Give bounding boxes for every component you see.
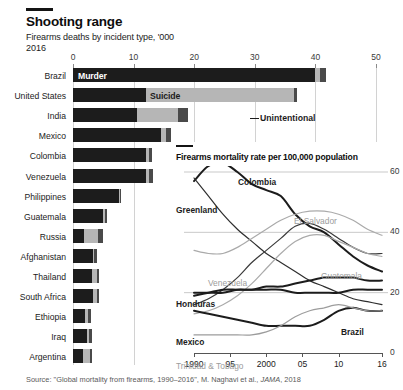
line-label-brazil: Brazil [341,327,364,337]
line-label-mexico: Mexico [176,337,204,347]
bar-segment-murder[interactable] [73,108,137,122]
bar-segment-murder[interactable] [73,148,146,162]
inset-xtick-label: 2000 [257,359,276,369]
bar-segment-murder[interactable] [73,209,103,223]
source-note: Source: "Global mortality from firearms,… [26,375,301,384]
bar-row-label: Thailand [33,272,66,282]
bar-row-label: Iraq [51,332,66,342]
unintentional-callout-line [250,118,259,119]
bar-row-label: Mexico [39,131,66,141]
bar-segment-suicide[interactable] [84,229,99,243]
inset-ytick-label: 20 [390,287,399,297]
inset-ytick-label: 0 [390,347,395,357]
bar-row-label: Colombia [30,151,66,161]
bar-segment-unintentional[interactable] [94,249,96,263]
source-journal: JAMA [260,375,280,384]
line-series[interactable] [194,166,382,272]
bar-segment-murder[interactable] [73,249,93,263]
inset-xtick-label: 05 [298,359,307,369]
line-series-svg [176,166,403,352]
bar-row-label: Afghanistan [21,252,66,262]
bar-segment-unintentional[interactable] [88,309,91,323]
inset-xtick-mark [230,353,231,357]
line-label-guatemala: Guatemala [321,271,362,281]
bar-segment-suicide[interactable] [137,108,178,122]
bar-row[interactable]: Mexico [0,128,403,142]
inset-xtick-mark [302,353,303,357]
inset-xtick-mark [194,353,195,357]
bar-segment-murder[interactable] [73,128,161,142]
inset-xtick-mark [382,353,383,357]
inset-xtick-mark [339,353,340,357]
line-label-honduras: Honduras [176,299,215,309]
bar-segment-murder[interactable] [73,189,119,203]
bar-row-label: Brazil [45,71,67,81]
inset-xtick-label: 16 [377,359,386,369]
bar-segment-unintentional[interactable] [166,128,171,142]
line-label-trinidad-tobago: Trinidad & Tobago [176,361,244,371]
bar-segment-unintentional[interactable] [149,148,151,162]
bar-segment-murder[interactable] [73,68,315,82]
bar-segment-murder[interactable] [73,229,84,243]
bar-row-label: South Africa [20,292,66,302]
bar-row-label: Philippines [24,192,66,202]
bar-row-label: Guatemala [24,212,66,222]
inset-ytick-label: 60 [390,166,399,176]
bar-segment-unintentional[interactable] [98,229,103,243]
bar-segment-unintentional[interactable] [89,329,92,343]
bar-segment-unintentional[interactable] [120,189,121,203]
bar-segment-murder[interactable] [73,169,146,183]
bar-segment-suicide[interactable] [83,349,90,363]
line-label-greenland: Greenland [176,205,217,215]
line-label-colombia: Colombia [238,177,276,187]
bar-segment-unintentional[interactable] [294,88,297,102]
bar-row[interactable]: Brazil [0,68,403,82]
bar-row-label: United States [14,91,66,101]
bar-segment-unintentional[interactable] [97,289,99,303]
bar-row-label: Ethiopia [35,312,66,322]
inset-x-axis-line [194,353,382,354]
bar-segment-unintentional[interactable] [105,209,107,223]
bar-segment-murder[interactable] [73,289,93,303]
bar-segment-murder[interactable] [73,349,83,363]
line-label-venezuela: Venezuela [208,278,247,288]
source-suffix: , 2018 [280,375,301,384]
bar-segment-unintentional[interactable] [97,269,99,283]
source-prefix: Source: "Global mortality from firearms,… [26,375,260,384]
series-label-suicide: Suicide [150,91,180,101]
bar-row-label: Venezuela [26,172,66,182]
line-label-el-salvador: El Salvador [294,216,337,226]
inset-plot-area [176,166,403,352]
bar-segment-unintentional[interactable] [90,349,92,363]
bar-segment-murder[interactable] [73,88,146,102]
chart-page: Shooting range Firearms deaths by incide… [0,0,403,390]
bar-row-label: India [47,111,66,121]
inset-ytick-label: 40 [390,226,399,236]
inset-title: Firearms mortality rate per 100,000 popu… [176,152,358,162]
inset-xtick-mark [266,353,267,357]
bar-segment-unintentional[interactable] [149,169,153,183]
line-series[interactable] [194,308,382,326]
bar-segment-murder[interactable] [73,309,85,323]
series-label-unintentional: Unintentional [260,113,316,123]
inset-xtick-label: 10 [334,359,343,369]
bar-row[interactable]: India [0,108,403,122]
series-label-murder: Murder [78,71,107,81]
inset-line-chart: Firearms mortality rate per 100,000 popu… [176,142,403,374]
bar-segment-murder[interactable] [73,329,87,343]
bar-row-label: Argentina [29,352,66,362]
bar-segment-murder[interactable] [73,269,92,283]
bar-row[interactable]: United States [0,88,403,102]
bar-row-label: Russia [40,232,66,242]
inset-rule [176,145,193,147]
bar-segment-unintentional[interactable] [178,108,187,122]
bar-segment-unintentional[interactable] [320,68,325,82]
